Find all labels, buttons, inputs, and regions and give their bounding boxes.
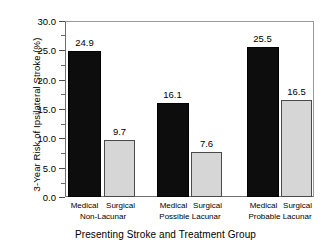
y-tick-10 — [59, 138, 65, 139]
y-tick-label-5: 5.0 — [0, 164, 56, 174]
y-tick-25 — [59, 50, 65, 51]
y-tick-label-25: 25.0 — [0, 46, 56, 56]
y-minor-tick-22p5 — [61, 65, 65, 66]
y-minor-tick-17p5 — [61, 94, 65, 95]
x-tick-label-surgical-1: Surgical — [93, 201, 148, 212]
y-minor-tick-7p5 — [61, 153, 65, 154]
x-axis-title: Presenting Stroke and Treatment Group — [0, 229, 331, 240]
y-minor-tick-12p5 — [61, 124, 65, 125]
bar-surgical-non-lacunar — [104, 140, 135, 197]
y-tick-label-10: 10.0 — [0, 134, 56, 144]
x-tick-label-surgical-3: Surgical — [270, 201, 325, 212]
bar-value-medical-non-lacunar: 24.9 — [60, 38, 109, 48]
y-tick-5 — [59, 168, 65, 169]
x-group-label-probable-lacunar: Probable Lacunar — [240, 212, 320, 223]
y-tick-label-20: 20.0 — [0, 76, 56, 86]
x-tick-label-surgical-2: Surgical — [180, 201, 235, 212]
bar-medical-possible-lacunar — [157, 103, 189, 197]
bar-value-surgical-possible-lacunar: 7.6 — [182, 139, 231, 149]
bar-value-surgical-non-lacunar: 9.7 — [95, 127, 144, 137]
y-tick-0 — [59, 197, 65, 198]
bar-value-surgical-probable-lacunar: 16.5 — [272, 87, 321, 97]
bar-value-medical-probable-lacunar: 25.5 — [238, 34, 287, 44]
bar-value-medical-possible-lacunar: 16.1 — [148, 90, 197, 100]
bar-surgical-probable-lacunar — [281, 100, 312, 197]
bar-surgical-possible-lacunar — [191, 152, 222, 197]
y-tick-label-30: 30.0 — [0, 17, 56, 27]
y-tick-15 — [59, 109, 65, 110]
y-tick-30 — [59, 21, 65, 22]
x-group-label-possible-lacunar: Possible Lacunar — [150, 212, 230, 223]
y-tick-label-0: 0.0 — [0, 193, 56, 203]
bar-chart-figure: 3-Year Risk of Ipsilateral Stroke (%) 0.… — [0, 0, 331, 250]
y-minor-tick-2p5 — [61, 183, 65, 184]
bar-medical-non-lacunar — [68, 51, 101, 197]
x-group-label-non-lacunar: Non-Lacunar — [73, 212, 133, 223]
y-minor-tick-27p5 — [61, 35, 65, 36]
y-tick-20 — [59, 80, 65, 81]
y-tick-label-15: 15.0 — [0, 105, 56, 115]
bar-medical-probable-lacunar — [247, 47, 279, 197]
